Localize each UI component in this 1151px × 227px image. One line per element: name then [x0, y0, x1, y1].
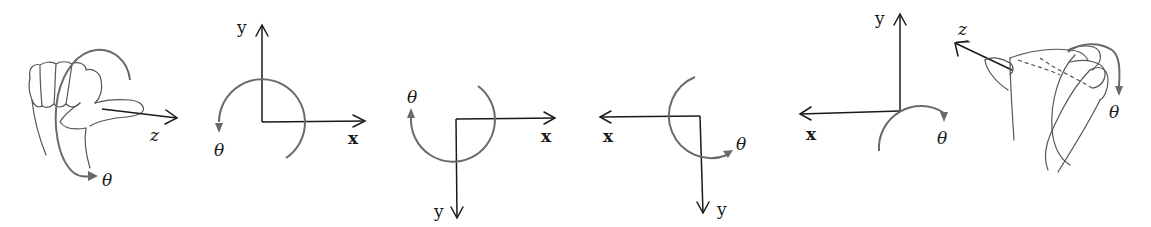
y-label: y	[874, 8, 885, 28]
x-axis	[456, 118, 555, 119]
panel-y-up-x-right: y x θ	[214, 17, 365, 160]
theta-label: θ	[937, 128, 947, 148]
panel-y-up-x-left: θ y x z	[800, 8, 968, 151]
y-label: y	[236, 17, 247, 37]
z-axis	[955, 43, 1012, 70]
x-axis	[800, 111, 900, 114]
y-axis	[456, 119, 457, 218]
theta-label: θ	[102, 170, 112, 190]
x-label: x	[806, 124, 817, 144]
panel-y-down-x-right: θ x y	[407, 86, 555, 221]
theta-label: θ	[214, 140, 224, 160]
z-label: z	[149, 125, 160, 145]
y-label: y	[433, 201, 444, 221]
theta-arrowhead-icon	[940, 112, 948, 122]
theta-arrowhead-icon	[88, 171, 98, 181]
theta-label: θ	[736, 134, 746, 154]
theta-arrowhead-icon	[1115, 86, 1123, 96]
z-label: z	[957, 19, 968, 39]
y-axis	[700, 116, 703, 213]
theta-label: θ	[407, 87, 417, 107]
theta-arc	[879, 106, 944, 151]
theta-arc	[411, 86, 495, 162]
x-label: x	[541, 126, 552, 146]
panel-y-down-x-left: θ x y	[600, 77, 746, 219]
theta-arrowhead-icon	[407, 108, 415, 118]
theta-label: θ	[1109, 102, 1119, 122]
rotation-diagram: θ z y x θ θ x y θ x y	[0, 0, 1151, 227]
theta-arc	[669, 77, 727, 158]
x-axis	[262, 121, 365, 122]
theta-arrowhead-icon	[215, 123, 223, 133]
y-label: y	[716, 199, 727, 219]
x-label: x	[348, 128, 359, 148]
panel-right-hand-z-in: θ	[955, 41, 1123, 172]
hand-illustration-right	[985, 46, 1108, 172]
x-label: x	[603, 126, 614, 146]
x-axis	[600, 116, 700, 117]
hand-illustration-left	[29, 62, 143, 168]
panel-right-hand-z-out: θ z	[29, 50, 177, 190]
